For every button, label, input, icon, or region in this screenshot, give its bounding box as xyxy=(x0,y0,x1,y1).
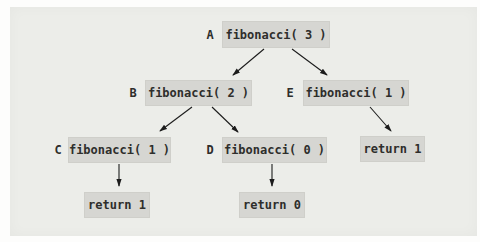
scanned-figure-page: A B E C D fibonacci( 3 ) fibonacci( 2 ) … xyxy=(0,0,480,242)
node-return-0-under-d: return 0 xyxy=(239,192,305,218)
call-label-c: C xyxy=(50,137,66,163)
node-fibonacci-1-right: fibonacci( 1 ) xyxy=(303,80,409,106)
node-return-1-under-e: return 1 xyxy=(360,136,425,162)
call-label-d: D xyxy=(202,137,218,163)
node-fibonacci-3: fibonacci( 3 ) xyxy=(222,21,330,48)
call-label-e: E xyxy=(282,80,298,106)
node-fibonacci-2: fibonacci( 2 ) xyxy=(145,80,252,106)
call-label-b: B xyxy=(125,80,141,106)
node-return-1-under-c: return 1 xyxy=(84,192,150,218)
node-fibonacci-0: fibonacci( 0 ) xyxy=(222,137,327,163)
node-fibonacci-1-left: fibonacci( 1 ) xyxy=(68,137,171,163)
call-label-a: A xyxy=(202,21,218,48)
